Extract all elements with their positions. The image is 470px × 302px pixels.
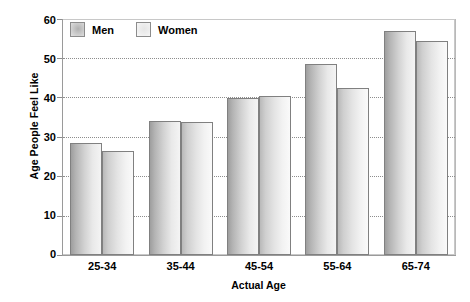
x-tick-label-55-64: 55-64 [297, 260, 377, 272]
men-swatch-icon [70, 22, 85, 37]
x-axis-line [62, 255, 456, 256]
bar-chart: Age People Feel Like 60 50 40 30 20 10 0… [0, 0, 470, 302]
legend-label-women: Women [158, 24, 198, 36]
legend-entry-women: Women [136, 22, 198, 37]
x-axis-title: Actual Age [62, 279, 455, 291]
bar-men-55-64 [305, 64, 337, 255]
y-tick-label-50: 50 [28, 54, 56, 65]
bar-men-65-74 [384, 31, 416, 255]
bar-women-55-64 [337, 88, 369, 255]
legend-label-men: Men [92, 24, 114, 36]
bar-men-25-34 [70, 143, 102, 255]
y-tick-label-20: 20 [28, 171, 56, 182]
bar-women-45-54 [259, 96, 291, 255]
bar-women-35-44 [181, 122, 213, 255]
x-tick-label-35-44: 35-44 [141, 260, 221, 272]
y-tick-label-30: 30 [28, 132, 56, 143]
y-tick-label-0: 0 [28, 249, 56, 260]
legend-entry-men: Men [70, 22, 114, 37]
bar-women-25-34 [102, 151, 134, 255]
x-tick-label-65-74: 65-74 [376, 260, 456, 272]
y-tick-label-10: 10 [28, 210, 56, 221]
women-swatch-icon [136, 22, 151, 37]
legend: Men Women [70, 22, 198, 37]
bar-men-45-54 [227, 98, 259, 255]
plot-right-border [455, 19, 456, 256]
y-axis-tick-labels: 60 50 40 30 20 10 0 [28, 0, 56, 302]
y-tick-label-40: 40 [28, 93, 56, 104]
x-tick-label-25-34: 25-34 [62, 260, 142, 272]
y-tick-label-60: 60 [28, 15, 56, 26]
bar-men-35-44 [149, 121, 181, 255]
x-tick-label-45-54: 45-54 [219, 260, 299, 272]
bar-women-65-74 [416, 41, 448, 255]
